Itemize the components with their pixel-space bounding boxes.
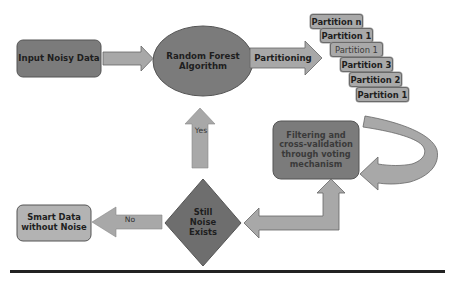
elbow-arrow-filtering-decision	[244, 179, 345, 238]
partition-label: Partition 2	[351, 75, 401, 85]
loop-arrow	[360, 116, 438, 190]
partition-label: Partition 1	[335, 45, 378, 55]
partition-box: Partition 2	[349, 72, 402, 87]
algorithm-node: Random Forest Algorithm	[153, 40, 253, 82]
partitioning-arrow: Partitioning	[252, 48, 314, 68]
yes-edge-label: Yes	[186, 124, 216, 138]
partition-box: Partition 1	[330, 42, 383, 57]
output-label-line2: without Noise	[21, 223, 87, 233]
input-node-label: Input Noisy Data	[18, 53, 99, 63]
partition-box: Partition 1	[320, 28, 373, 43]
input-node: Input Noisy Data	[17, 40, 101, 77]
output-node: Smart Data without Noise	[17, 205, 91, 241]
partition-label: Partition n	[311, 17, 361, 27]
partition-label: Partition 1	[322, 31, 372, 41]
partitioning-label: Partitioning	[254, 53, 311, 63]
flowchart-diagram: Input Noisy Data Random Forest Algorithm…	[0, 0, 453, 284]
partition-label: Partition 1	[358, 90, 408, 100]
filtering-label-line4: mechanism	[290, 160, 342, 170]
algorithm-label-line1: Random Forest	[166, 51, 239, 61]
partition-box: Partition 3	[340, 57, 393, 72]
no-edge-label: No	[115, 213, 145, 227]
arrow-input-to-algorithm	[103, 46, 153, 71]
partition-label: Partition 3	[342, 60, 392, 70]
arrow-yes-to-algorithm	[185, 108, 215, 168]
partition-box: Partition n	[310, 14, 363, 29]
filtering-node: Filtering and cross-validation through v…	[273, 121, 359, 179]
algorithm-label-line2: Algorithm	[179, 61, 227, 71]
partition-box: Partition 1	[356, 87, 409, 102]
decision-node: Still Noise Exists	[176, 196, 230, 250]
bottom-rule	[10, 270, 445, 273]
decision-label-line3: Exists	[189, 228, 217, 238]
